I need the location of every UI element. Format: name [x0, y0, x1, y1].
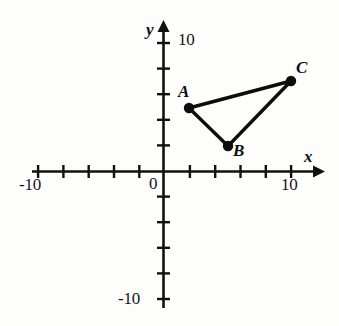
- y-axis-label: y: [146, 21, 154, 38]
- point-b-label: B: [233, 142, 244, 159]
- y-axis: [158, 20, 170, 308]
- coordinate-plane-figure: y x 10 -10 -10 10 0 A B C: [0, 0, 339, 326]
- y-axis-arrow-icon: [158, 20, 170, 32]
- point-a-marker: [184, 103, 194, 113]
- x-axis-arrow-icon: [313, 166, 325, 178]
- point-c-label: C: [296, 59, 307, 76]
- x-axis-label: x: [304, 148, 313, 165]
- x-axis-max-tick-label: 10: [281, 176, 298, 193]
- y-axis-max-tick-label: 10: [178, 31, 195, 48]
- y-axis-min-tick-label: -10: [118, 290, 140, 307]
- x-axis-min-tick-label: -10: [19, 176, 41, 193]
- triangle-abc: [189, 81, 291, 146]
- origin-label: 0: [149, 175, 157, 192]
- point-b-marker: [223, 141, 233, 151]
- point-c-marker: [286, 76, 296, 86]
- plot-canvas: [0, 0, 339, 326]
- point-a-label: A: [178, 83, 189, 100]
